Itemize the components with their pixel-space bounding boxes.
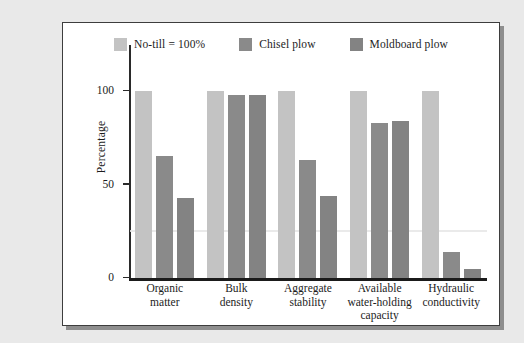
bar: [156, 156, 173, 278]
bar: [371, 123, 388, 278]
chart-frame: No-till = 100% Chisel plow Moldboard plo…: [62, 22, 500, 326]
bar: [299, 160, 316, 278]
y-axis-tick-label: 50: [103, 178, 115, 190]
bar-group-bars: [129, 63, 201, 278]
bar-group-bars: [415, 63, 487, 278]
bar-group-bars: [272, 63, 344, 278]
bar: [249, 95, 266, 278]
bar-group-bars: [344, 63, 416, 278]
bar: [443, 252, 460, 278]
bar: [278, 91, 295, 278]
bar-group: Available water-holding capacity: [344, 63, 416, 278]
figure-page: No-till = 100% Chisel plow Moldboard plo…: [0, 0, 524, 343]
bar-group: Bulk density: [201, 63, 273, 278]
bar: [135, 91, 152, 278]
bar: [320, 196, 337, 278]
bar: [177, 198, 194, 278]
plot-area: 050100 Organic matterBulk densityAggrega…: [129, 63, 487, 278]
bar: [422, 91, 439, 278]
bar: [350, 91, 367, 278]
bar-group: Aggregate stability: [272, 63, 344, 278]
plot-wrapper: Percentage 050100 Organic matterBulk den…: [63, 23, 501, 327]
bar: [207, 91, 224, 278]
bar-group: Hydraulic conductivity: [415, 63, 487, 278]
x-axis-category-label: Hydraulic conductivity: [391, 282, 511, 309]
bar: [392, 121, 409, 278]
bar-group-bars: [201, 63, 273, 278]
x-axis-line: [129, 278, 487, 282]
bar-group: Organic matter: [129, 63, 201, 278]
y-axis-tick-label: 100: [97, 84, 114, 96]
bar: [228, 95, 245, 278]
bar: [464, 269, 481, 278]
